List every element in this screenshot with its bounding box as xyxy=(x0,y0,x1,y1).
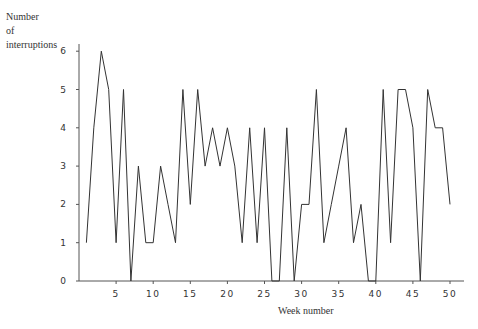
x-tick-label: 40 xyxy=(369,289,383,299)
y-tick-label: 1 xyxy=(60,238,66,248)
x-axis-label: Week number xyxy=(278,305,334,316)
line-chart: 0123456 5101520253035404550 xyxy=(0,0,478,329)
x-tick-label: 15 xyxy=(183,289,197,299)
y-tick-label: 4 xyxy=(60,123,66,133)
x-tick-label: 20 xyxy=(220,289,234,299)
y-tick-label: 5 xyxy=(60,85,66,95)
y-tick-label: 6 xyxy=(60,46,66,56)
interruptions-series-line xyxy=(86,51,450,281)
x-tick-label: 25 xyxy=(257,289,271,299)
y-tick-label: 3 xyxy=(60,161,66,171)
axes xyxy=(79,44,464,281)
x-tick-label: 10 xyxy=(146,289,160,299)
x-tick-label: 35 xyxy=(331,289,345,299)
x-axis-ticks: 5101520253035404550 xyxy=(112,281,457,299)
x-tick-label: 45 xyxy=(406,289,420,299)
y-tick-label: 2 xyxy=(60,199,66,209)
x-tick-label: 30 xyxy=(294,289,308,299)
y-tick-label: 0 xyxy=(60,276,66,286)
y-axis-ticks: 0123456 xyxy=(60,46,79,286)
x-tick-label: 5 xyxy=(112,289,119,299)
x-tick-label: 50 xyxy=(443,289,457,299)
